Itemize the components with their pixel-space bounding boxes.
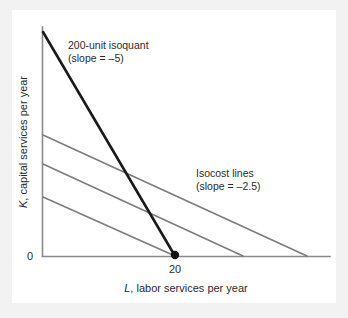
- isoquant-annotation-line1: 200-unit isoquant: [68, 39, 149, 51]
- origin-label: 0: [27, 250, 33, 262]
- isocost-annotation-line1: Isocost lines: [196, 167, 254, 179]
- isoquant-annotation-line2: (slope = –5): [68, 52, 124, 64]
- figure-container: 0 20 L, labor services per year K, capit…: [0, 0, 348, 318]
- isoquant-isocost-chart: 0 20 L, labor services per year K, capit…: [0, 0, 348, 318]
- x-axis-title: L, labor services per year: [124, 282, 248, 294]
- tangency-point-marker: [171, 251, 179, 259]
- isocost-line-high: [43, 135, 307, 256]
- isocost-line-low: [43, 197, 175, 256]
- y-axis-title: K, capital services per year: [17, 76, 29, 208]
- y-axis-title-rest: , capital services per year: [17, 76, 29, 201]
- x-tick-label-20: 20: [169, 263, 181, 275]
- isocost-annotation-line2: (slope = –2.5): [196, 180, 261, 192]
- x-axis-title-rest: , labor services per year: [130, 282, 248, 294]
